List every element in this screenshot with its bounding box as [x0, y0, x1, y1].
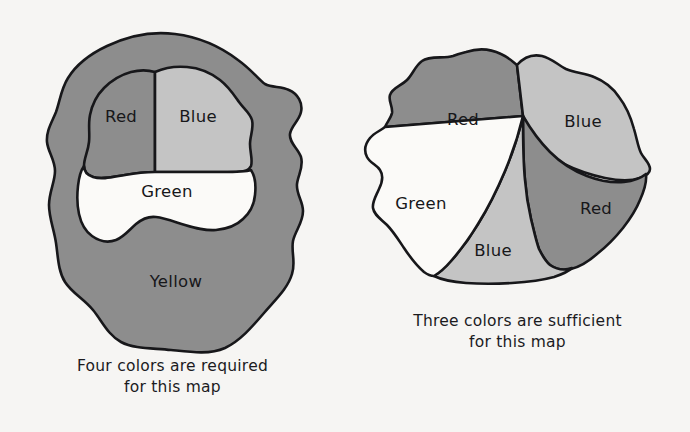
caption-line-1: Four colors are required: [0, 356, 345, 377]
region-label-blue-lower: Blue: [474, 241, 512, 260]
figure-page: Red Blue Green Yellow Four colors are re…: [0, 0, 690, 432]
caption-line-1: Three colors are sufficient: [345, 311, 690, 332]
region-label-yellow: Yellow: [149, 272, 203, 291]
region-label-red-lower: Red: [580, 199, 612, 218]
caption-line-2: for this map: [0, 377, 345, 398]
caption-four-color-map: Four colors are required for this map: [0, 356, 345, 398]
region-label-red: Red: [105, 107, 137, 126]
region-label-green: Green: [141, 182, 192, 201]
region-label-blue: Blue: [179, 107, 217, 126]
caption-three-color-map: Three colors are sufficient for this map: [345, 311, 690, 353]
region-label-red-upper: Red: [447, 110, 479, 129]
three-color-map-drawing: Red Blue Red Blue Green: [345, 0, 690, 320]
figure-four-color-map: Red Blue Green Yellow Four colors are re…: [0, 0, 345, 432]
caption-line-2: for this map: [345, 332, 690, 353]
region-label-green: Green: [395, 194, 446, 213]
four-color-map-drawing: Red Blue Green Yellow: [0, 0, 345, 360]
region-label-blue-upper: Blue: [564, 112, 602, 131]
figure-three-color-map: Red Blue Red Blue Green Three colors are…: [345, 0, 690, 432]
